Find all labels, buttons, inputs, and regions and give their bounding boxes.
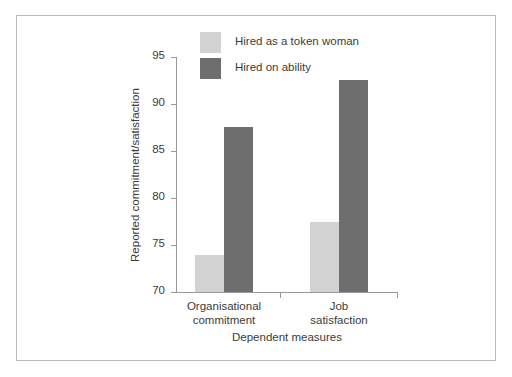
y-axis-title: Reported commitment/satisfaction: [126, 57, 144, 293]
legend-swatch-icon-token-woman: [200, 32, 221, 53]
x-axis-title: Dependent measures: [176, 331, 398, 343]
x-group-label-job-satisfaction: Job satisfaction: [288, 299, 390, 327]
legend-label-token-woman: Hired as a token woman: [235, 36, 359, 48]
x-axis-line: [176, 292, 398, 293]
y-tick-label-90: 90: [152, 96, 165, 108]
y-tick-95: 95: [171, 57, 176, 58]
y-tick-80: 80: [171, 198, 176, 199]
y-axis-line: [176, 57, 177, 293]
y-tick-label-70: 70: [152, 284, 165, 296]
chart-figure: Hired as a token woman Hired on ability …: [0, 0, 512, 377]
bar-organisational-commitment-token-woman: [195, 255, 224, 292]
x-tick-center: [280, 293, 281, 298]
y-tick-85: 85: [171, 151, 176, 152]
plot-area: 95 90 85 80 75 70 Organisational commitm…: [176, 57, 398, 293]
bar-job-satisfaction-token-woman: [310, 222, 339, 292]
y-tick-label-80: 80: [152, 190, 165, 202]
x-group-label-line2-satisfaction: satisfaction: [288, 313, 390, 327]
y-tick-label-85: 85: [152, 143, 165, 155]
x-group-label-organisational-commitment: Organisational commitment: [173, 299, 275, 327]
x-group-label-line1-job: Job: [288, 299, 390, 313]
y-tick-90: 90: [171, 104, 176, 105]
y-tick-70: 70: [171, 292, 176, 293]
x-group-label-line2-commitment: commitment: [173, 313, 275, 327]
bar-organisational-commitment-on-ability: [224, 127, 253, 292]
legend-item-token-woman: Hired as a token woman: [200, 30, 450, 54]
y-tick-label-95: 95: [152, 49, 165, 61]
x-tick-right: [397, 293, 398, 298]
y-tick-75: 75: [171, 245, 176, 246]
bar-job-satisfaction-on-ability: [339, 80, 368, 292]
y-tick-label-75: 75: [152, 237, 165, 249]
x-group-label-line1-organisational: Organisational: [173, 299, 275, 313]
